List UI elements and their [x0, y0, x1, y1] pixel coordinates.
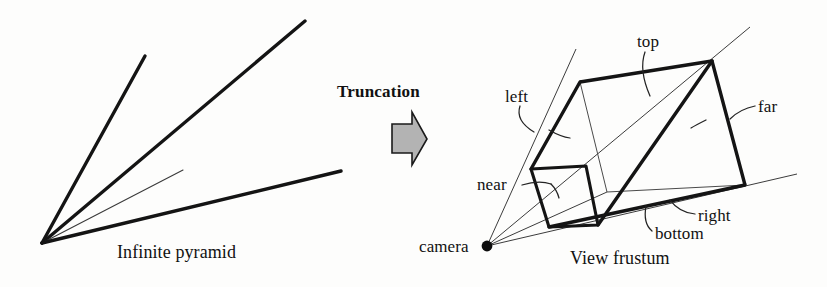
frustum-construction-rays [487, 27, 797, 246]
label-top: top [637, 33, 659, 50]
frustum-side-edges [531, 61, 745, 227]
leader-bottom [645, 206, 652, 231]
leader-far-tick [691, 120, 706, 128]
far-plane-edge-left-hidden [580, 82, 607, 192]
label-near: near [477, 176, 507, 193]
label-camera: camera [419, 238, 469, 255]
label-bottom: bottom [655, 225, 704, 242]
leader-right [670, 200, 695, 214]
leader-top [643, 52, 650, 96]
edge-top-right-silhouette [598, 61, 712, 225]
transition-label: Truncation [337, 83, 420, 100]
caption-infinite-pyramid: Infinite pyramid [117, 243, 236, 261]
label-leader-lines [519, 52, 755, 231]
ray-to-top-left-extended [487, 49, 576, 246]
right-block-arrow-icon [392, 112, 427, 165]
caption-view-frustum: View frustum [570, 249, 670, 267]
camera-point-dot [482, 241, 493, 252]
pyramid-ray-upper-left [42, 56, 145, 243]
ray-to-bottom-right-extended [487, 174, 797, 246]
infinite-pyramid-group [42, 21, 341, 243]
leader-left [519, 106, 534, 132]
label-left: left [505, 88, 528, 105]
label-far: far [758, 98, 777, 115]
label-right: right [698, 207, 731, 224]
leader-near-tick [551, 184, 559, 198]
far-plane-quad [580, 61, 745, 185]
leader-far [730, 106, 755, 119]
figure-view-frustum: Infinite pyramid Truncation top left far… [0, 0, 827, 287]
view-frustum-group [482, 27, 797, 251]
